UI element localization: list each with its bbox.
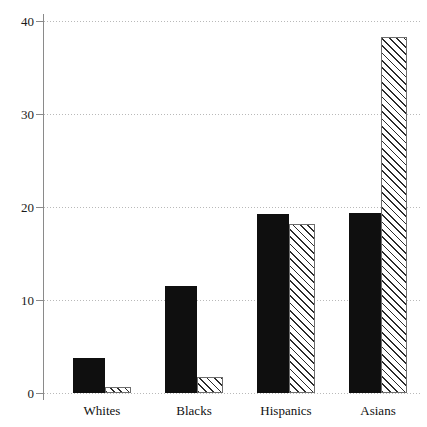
bars-layer	[44, 21, 418, 393]
x-label-blacks: Blacks	[176, 404, 211, 417]
y-tick-30	[36, 114, 44, 115]
y-tick-20	[36, 207, 44, 208]
bar-hispanics-solid	[257, 214, 289, 393]
x-label-hispanics: Hispanics	[260, 404, 311, 417]
y-tick-label-30: 30	[0, 108, 34, 121]
y-tick-label-40: 40	[0, 15, 34, 28]
y-tick-0	[36, 393, 44, 394]
bar-hispanics-hatched	[289, 224, 315, 393]
x-label-whites: Whites	[84, 404, 121, 417]
y-tick-label-10: 10	[0, 294, 34, 307]
y-tick-label-20: 20	[0, 201, 34, 214]
gridline-0	[44, 393, 422, 394]
bar-chart: 40 30 20 10 0 Whites Blacks Hispanics As…	[0, 0, 427, 427]
bar-asians-hatched	[381, 37, 407, 393]
bar-blacks-hatched	[197, 377, 223, 393]
bar-whites-solid	[73, 358, 105, 393]
y-tick-10	[36, 300, 44, 301]
bar-asians-solid	[349, 213, 381, 393]
y-tick-label-0: 0	[0, 387, 34, 400]
bar-blacks-solid	[165, 286, 197, 393]
y-tick-40	[36, 21, 44, 22]
x-label-asians: Asians	[360, 404, 395, 417]
bar-whites-hatched	[105, 387, 131, 393]
